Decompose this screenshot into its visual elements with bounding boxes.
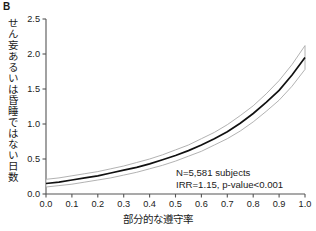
figure-panel-b: B せん妄あるいは昏睡ではない日数 0.00.51.01.52.02.5 0.0… <box>0 0 316 231</box>
x-tick-label: 1.0 <box>299 199 312 209</box>
estimate-line <box>46 58 305 184</box>
x-tick-label: 0.9 <box>273 199 286 209</box>
y-tick-label: 2.5 <box>27 14 40 24</box>
x-tick-label: 0.7 <box>221 199 234 209</box>
y-tick-label: 0.0 <box>27 189 40 199</box>
x-tick-label: 0.2 <box>91 199 104 209</box>
annotation-sample-size: N=5,581 subjects <box>176 167 251 178</box>
x-tick-label: 0.3 <box>117 199 130 209</box>
x-tick-label: 0.5 <box>169 199 182 209</box>
x-tick-label: 0.1 <box>66 199 79 209</box>
x-axis-ticks: 0.00.10.20.30.40.50.60.70.80.91.0 <box>40 194 312 209</box>
x-tick-label: 0.4 <box>143 199 156 209</box>
x-tick-label: 0.0 <box>40 199 53 209</box>
y-tick-label: 2.0 <box>27 49 40 59</box>
y-axis-ticks: 0.00.51.01.52.02.5 <box>27 14 46 199</box>
y-tick-label: 1.0 <box>27 119 40 129</box>
x-tick-label: 0.8 <box>247 199 260 209</box>
y-tick-label: 1.5 <box>27 84 40 94</box>
chart-plot: 0.00.51.01.52.02.5 0.00.10.20.30.40.50.6… <box>0 0 316 231</box>
x-tick-label: 0.6 <box>195 199 208 209</box>
y-tick-label: 0.5 <box>27 154 40 164</box>
x-axis-title: 部分的な遵守率 <box>0 213 316 225</box>
confidence-band <box>46 46 305 187</box>
annotation-statistics: IRR=1.15, p-value<0.001 <box>176 179 283 190</box>
